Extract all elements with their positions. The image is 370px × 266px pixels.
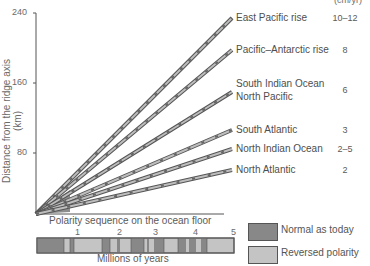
band-pacific-antarctic-rise — [36, 50, 232, 214]
label-south-atlantic: South Atlantic — [236, 124, 297, 135]
band-east-pacific-rise — [36, 18, 232, 214]
time-tick-1: 1 — [75, 227, 80, 237]
time-tick-3: 3 — [153, 227, 158, 237]
label-east-pacific-rise: East Pacific rise — [236, 12, 307, 23]
label-north-indian-ocean: North Indian Ocean — [236, 143, 323, 154]
label-pacific-antarctic-rise: Pacific–Antarctic rise — [236, 44, 329, 55]
polarity-sequence-caption: Polarity sequence on the ocean floor — [49, 215, 211, 226]
millions-of-years-caption: Millions of years — [97, 253, 169, 264]
rate-north-atlantic: 2 — [330, 165, 360, 175]
rate-south-atlantic: 3 — [330, 125, 360, 135]
legend-normal-label: Normal as today — [281, 224, 354, 235]
label-north-pacific: North Pacific — [236, 91, 293, 102]
time-tick-4: 4 — [193, 227, 198, 237]
time-tick-5: 5 — [231, 227, 236, 237]
band-north-indian-ocean — [36, 149, 232, 214]
legend-reversed-swatch — [248, 246, 278, 264]
band-south-indian-north-pacific — [36, 92, 232, 214]
label-north-atlantic: North Atlantic — [236, 164, 295, 175]
time-tick-2: 2 — [117, 227, 122, 237]
label-south-indian-ocean: South Indian Ocean — [236, 78, 324, 89]
rate-east-pacific-rise: 10–12 — [330, 13, 360, 23]
legend-normal-swatch — [248, 223, 278, 241]
rate-north-indian-ocean: 2–5 — [330, 144, 360, 154]
band-south-atlantic — [36, 130, 232, 214]
legend-reversed-label: Reversed polarity — [281, 247, 359, 258]
rate-south-indian-north-pacific: 6 — [330, 85, 360, 95]
rate-pacific-antarctic-rise: 8 — [330, 45, 360, 55]
polarity-timescale-bar — [37, 238, 234, 253]
